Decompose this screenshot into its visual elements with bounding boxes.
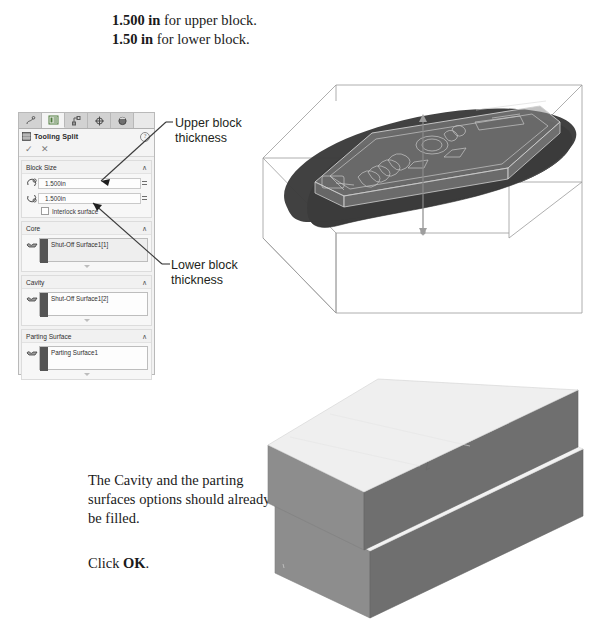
group-title-cavity: Cavity bbox=[26, 279, 44, 286]
group-header-cavity[interactable]: Cavity ∧ bbox=[22, 276, 151, 289]
sidebar-item-configuration-manager[interactable] bbox=[65, 113, 88, 128]
field-lower-block-depth[interactable]: 1.500in bbox=[25, 192, 148, 204]
group-title-block-size: Block Size bbox=[26, 164, 57, 171]
parting-surface-fill bbox=[284, 108, 576, 222]
dimension-note: 1.500 in for upper block. 1.50 in for lo… bbox=[112, 11, 257, 50]
field-upper-block-depth[interactable]: 1.500in bbox=[25, 177, 148, 189]
lower-block-depth-stepper[interactable] bbox=[141, 193, 148, 204]
property-manager-title-bar: Tooling Split ? bbox=[19, 129, 154, 143]
selection-accent-bar bbox=[40, 239, 48, 263]
lower-face-marker-icon bbox=[283, 564, 284, 568]
lower-block-right-face bbox=[370, 449, 583, 618]
ok-keyword: OK bbox=[123, 555, 146, 571]
help-icon[interactable]: ? bbox=[140, 132, 150, 142]
surface-face-icon bbox=[25, 238, 39, 264]
parting-surface-selection-box[interactable]: Parting Surface1 bbox=[39, 346, 148, 370]
depth-up-icon bbox=[25, 177, 38, 189]
feature-tree-icon bbox=[25, 116, 36, 126]
molded-part-wireframe bbox=[315, 101, 560, 207]
tab-strip-filler bbox=[134, 113, 154, 128]
group-block-size: Block Size ∧ 1.500in bbox=[21, 160, 152, 218]
tooling-split-icon bbox=[22, 127, 31, 145]
upper-block-right-face bbox=[364, 390, 578, 550]
parting-surface-disk bbox=[307, 116, 572, 227]
parting-surface-selection-value: Parting Surface1 bbox=[48, 347, 98, 356]
tooling-split-preview-wireframe bbox=[263, 85, 582, 313]
tooling-split-property-manager[interactable]: Tooling Split ? ✓ ✕ Block Size ∧ 1.500in bbox=[18, 112, 155, 375]
chevron-up-icon[interactable]: ∧ bbox=[142, 225, 147, 232]
page-title: Tooling Split bbox=[34, 132, 78, 141]
callout-lower-line1: Lower block bbox=[171, 258, 238, 273]
upper-block-left-face bbox=[268, 445, 364, 550]
lower-block-left-face bbox=[275, 505, 370, 618]
upper-dimension-text: for upper block. bbox=[160, 12, 257, 28]
click-ok-note: Click OK. bbox=[88, 554, 149, 573]
property-list-icon bbox=[48, 115, 59, 125]
core-selection-value: Shut-Off Surface1[1] bbox=[48, 239, 108, 248]
group-cavity: Cavity ∧ Shut-Off Surface1[2] bbox=[21, 275, 152, 326]
sidebar-item-property-manager[interactable] bbox=[42, 113, 65, 128]
depth-down-icon bbox=[25, 192, 38, 204]
group-body-block-size: 1.500in 1.500in Interlock surface bbox=[22, 174, 151, 217]
group-title-core: Core bbox=[26, 225, 40, 232]
surface-face-icon bbox=[25, 346, 39, 372]
split-block-result-render bbox=[268, 379, 583, 618]
cavity-note: The Cavity and the parting surfaces opti… bbox=[88, 471, 278, 528]
dimxpert-target-icon bbox=[94, 116, 105, 126]
top-face-shading bbox=[290, 414, 470, 466]
interlock-surface-checkbox[interactable] bbox=[41, 207, 49, 215]
selection-accent-bar bbox=[40, 347, 48, 371]
callout-lower-line2: thickness bbox=[171, 273, 238, 288]
display-sphere-icon bbox=[117, 116, 128, 126]
core-selection-box[interactable]: Shut-Off Surface1[1] bbox=[39, 238, 148, 262]
callout-upper-block-thickness: Upper block thickness bbox=[175, 116, 242, 147]
chevron-up-icon[interactable]: ∧ bbox=[142, 333, 147, 340]
group-header-parting-surface[interactable]: Parting Surface ∧ bbox=[22, 330, 151, 343]
group-header-core[interactable]: Core ∧ bbox=[22, 222, 151, 235]
upper-block-depth-value: 1.500in bbox=[45, 180, 66, 187]
sidebar-item-dimxpert-manager[interactable] bbox=[88, 113, 111, 128]
cavity-selection-value: Shut-Off Surface1[2] bbox=[48, 293, 108, 302]
upper-block-top-face bbox=[268, 379, 578, 492]
cavity-selection-row[interactable]: Shut-Off Surface1[2] bbox=[25, 292, 148, 318]
chevron-up-icon[interactable]: ∧ bbox=[142, 279, 147, 286]
page-canvas: 1.500 in for upper block. 1.50 in for lo… bbox=[0, 0, 608, 633]
parting-surface-band bbox=[275, 432, 583, 551]
accept-button[interactable]: ✓ bbox=[25, 145, 33, 154]
lower-block-depth-value: 1.500in bbox=[45, 195, 66, 202]
chevron-up-icon[interactable]: ∧ bbox=[142, 164, 147, 171]
group-header-block-size[interactable]: Block Size ∧ bbox=[22, 161, 151, 174]
surface-marker-icon bbox=[426, 462, 430, 470]
callout-lower-block-thickness: Lower block thickness bbox=[171, 258, 238, 289]
property-manager-tab-strip[interactable] bbox=[19, 113, 154, 129]
configuration-icon bbox=[71, 116, 82, 126]
core-expand-handle[interactable] bbox=[25, 264, 148, 269]
interlock-surface-row[interactable]: Interlock surface bbox=[25, 207, 148, 215]
lower-dimension-value: 1.50 in bbox=[112, 31, 153, 47]
sidebar-item-feature-manager[interactable] bbox=[19, 113, 42, 128]
surface-face-icon bbox=[25, 292, 39, 318]
interlock-surface-label: Interlock surface bbox=[52, 208, 98, 215]
group-core: Core ∧ Shut-Off Surface1[1] bbox=[21, 221, 152, 272]
callout-upper-line1: Upper block bbox=[175, 116, 242, 131]
group-body-core: Shut-Off Surface1[1] bbox=[22, 235, 151, 271]
sidebar-item-display-manager[interactable] bbox=[111, 113, 134, 128]
click-suffix: . bbox=[146, 555, 150, 571]
core-selection-row[interactable]: Shut-Off Surface1[1] bbox=[25, 238, 148, 264]
cavity-selection-box[interactable]: Shut-Off Surface1[2] bbox=[39, 292, 148, 316]
property-manager-action-row[interactable]: ✓ ✕ bbox=[19, 143, 154, 157]
upper-dimension-value: 1.500 in bbox=[112, 12, 160, 28]
parting-surface-expand-handle[interactable] bbox=[25, 372, 148, 377]
selection-accent-bar bbox=[40, 293, 48, 317]
group-title-parting-surface: Parting Surface bbox=[26, 333, 71, 340]
upper-block-depth-stepper[interactable] bbox=[141, 178, 148, 189]
group-body-cavity: Shut-Off Surface1[2] bbox=[22, 289, 151, 325]
parting-surface-selection-row[interactable]: Parting Surface1 bbox=[25, 346, 148, 372]
lower-block-depth-input[interactable]: 1.500in bbox=[38, 193, 141, 204]
cavity-expand-handle[interactable] bbox=[25, 318, 148, 323]
group-parting-surface: Parting Surface ∧ Parting Surface1 bbox=[21, 329, 152, 380]
upper-block-depth-input[interactable]: 1.500in bbox=[38, 178, 141, 189]
group-body-parting-surface: Parting Surface1 bbox=[22, 343, 151, 379]
pull-direction-axis bbox=[419, 114, 427, 236]
cancel-button[interactable]: ✕ bbox=[41, 145, 49, 154]
